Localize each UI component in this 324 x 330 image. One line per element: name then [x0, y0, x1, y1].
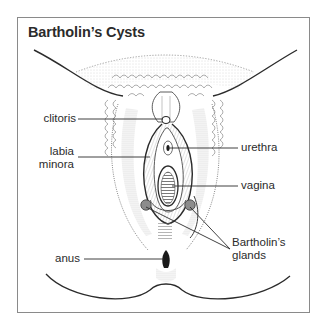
label-vagina: vagina: [241, 179, 275, 192]
label-anus: anus: [55, 252, 80, 265]
label-labia-minora-line1: labia: [34, 145, 74, 158]
label-labia-minora: labia minora: [34, 145, 74, 170]
label-bartholins-glands-line1: Bartholin’s: [232, 236, 286, 249]
label-bartholins-glands-line2: glands: [232, 249, 286, 262]
label-labia-minora-line2: minora: [34, 158, 74, 171]
upper-contour: [34, 50, 297, 96]
label-urethra: urethra: [241, 141, 277, 154]
label-clitoris: clitoris: [36, 112, 76, 125]
label-bartholins-glands: Bartholin’s glands: [232, 236, 286, 261]
